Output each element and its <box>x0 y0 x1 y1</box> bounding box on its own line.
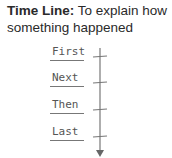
step-then: Then <box>52 98 88 111</box>
step-last-underline <box>50 140 84 141</box>
timeline-diagram: First Next Then Last <box>0 0 172 158</box>
step-then-underline <box>50 113 84 114</box>
step-next: Next <box>52 71 88 84</box>
step-last: Last <box>52 125 88 138</box>
step-next-underline <box>50 86 84 87</box>
step-first-underline <box>50 60 84 61</box>
arrow-down-icon <box>96 150 104 157</box>
step-first: First <box>52 45 88 58</box>
